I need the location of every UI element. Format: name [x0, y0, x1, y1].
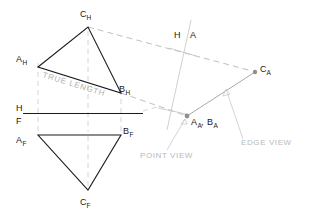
label-a-f-main: A	[16, 135, 22, 145]
label-b-f: B F	[123, 126, 134, 138]
label-b-f-main: B	[123, 126, 129, 136]
drawing-canvas: A H C H B H A F B F C F A A	[0, 0, 312, 214]
vertex-dot-aa-ba	[185, 114, 190, 119]
label-aa-main: A	[191, 117, 197, 127]
auxiliary-view-group	[185, 70, 258, 119]
label-fold-ha: H A	[174, 30, 196, 40]
label-ba-main: B	[207, 117, 213, 127]
label-b-h-main: B	[119, 84, 125, 94]
auxiliary-edge-view-line	[187, 72, 255, 116]
label-fold-f: F	[16, 116, 22, 126]
label-c-a: C A	[260, 64, 272, 76]
fold-line-ha-tick-upper	[169, 48, 196, 56]
label-c-a-sub: A	[267, 69, 272, 76]
front-view-triangle-group	[38, 135, 121, 190]
leader-lines-group	[167, 89, 243, 150]
annotation-edge-view: EDGE VIEW	[241, 138, 292, 147]
annotation-point-view: POINT VIEW	[140, 151, 193, 160]
descriptive-geometry-diagram: A H C H B H A F B F C F A A	[0, 0, 312, 214]
label-aa-ba: A A , B A	[191, 117, 219, 129]
projector-hf-right-extension	[143, 106, 160, 111]
annotation-true-length: TRUE LENGTH	[41, 70, 106, 98]
label-c-f-sub: F	[87, 202, 91, 209]
projection-lines-group	[38, 27, 252, 186]
label-c-h-sub: H	[87, 14, 92, 21]
label-aa-ba-comma: ,	[201, 117, 204, 127]
label-b-h-sub: H	[126, 89, 131, 96]
label-a-h-main: A	[16, 54, 22, 64]
label-a-f: A F	[16, 135, 27, 147]
label-fold-h: H	[16, 103, 23, 113]
leader-edge-view	[227, 92, 243, 139]
label-fold-ha-h: H	[174, 30, 181, 40]
label-fold-hf: H F	[16, 103, 23, 126]
vertex-dot-ca	[253, 70, 257, 74]
label-ba-sub: A	[214, 122, 219, 129]
label-b-f-sub: F	[130, 131, 134, 138]
label-c-h: C H	[80, 9, 92, 21]
front-view-triangle	[38, 135, 121, 190]
label-a-h: A H	[16, 54, 28, 66]
label-fold-ha-a: A	[190, 30, 196, 40]
label-a-f-sub: F	[23, 140, 27, 147]
label-c-f: C F	[80, 197, 91, 209]
label-a-h-sub: H	[23, 59, 28, 66]
projector-ch-to-ca	[88, 27, 252, 71]
